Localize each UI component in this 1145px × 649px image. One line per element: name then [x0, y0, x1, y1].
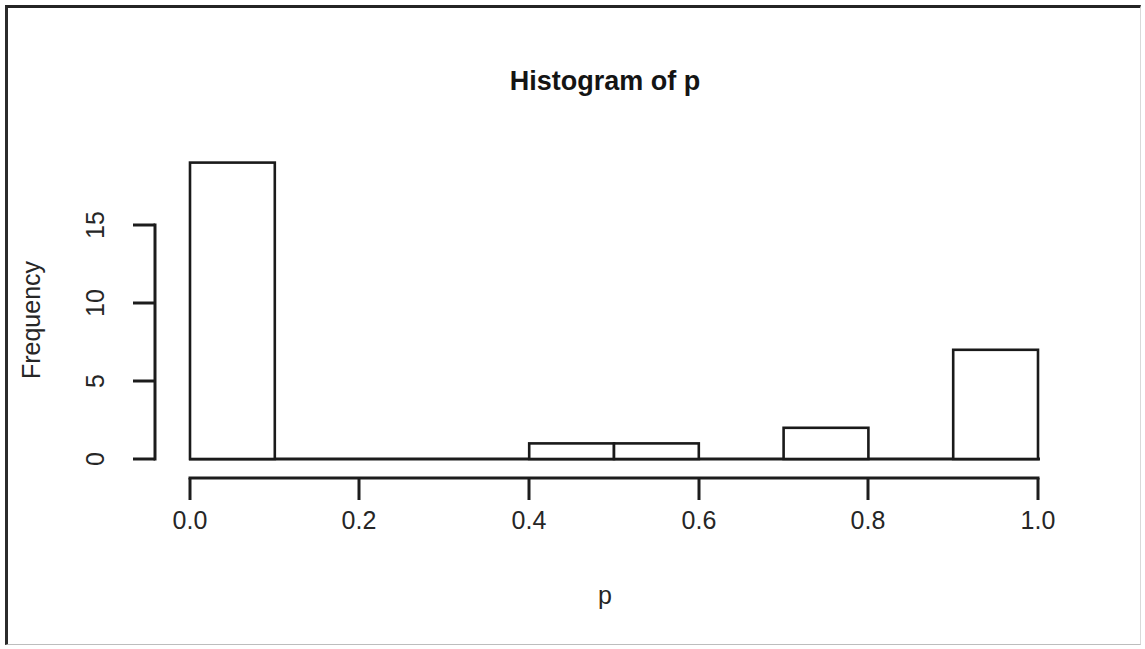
x-axis-title: p: [598, 581, 612, 609]
x-tick-label-0.4: 0.4: [512, 506, 547, 534]
x-tick-label-0.2: 0.2: [342, 506, 377, 534]
histogram-plot: Histogram of p 15 10 5 0 Frequency: [0, 0, 1145, 649]
y-tick-marks: [133, 225, 155, 459]
x-tick-label-1.0: 1.0: [1021, 506, 1056, 534]
x-tick-label-0.6: 0.6: [682, 506, 717, 534]
histogram-svg: Histogram of p 15 10 5 0 Frequency: [0, 0, 1145, 649]
histogram-bar: [953, 350, 1038, 459]
y-tick-labels: 15 10 5 0: [81, 211, 109, 466]
x-tick-label-0.0: 0.0: [173, 506, 208, 534]
x-tick-marks: [190, 478, 1038, 500]
histogram-bar: [190, 163, 275, 459]
y-tick-label-5: 5: [81, 374, 109, 388]
histogram-bar: [784, 428, 869, 459]
y-tick-label-10: 10: [81, 289, 109, 317]
plot-title: Histogram of p: [510, 66, 701, 96]
histogram-bar: [614, 443, 699, 459]
histogram-bar: [529, 443, 614, 459]
screenshot-canvas: Histogram of p 15 10 5 0 Frequency: [0, 0, 1145, 649]
y-axis-title: Frequency: [17, 260, 45, 379]
histogram-bars: [190, 163, 1038, 459]
y-tick-label-15: 15: [81, 211, 109, 239]
x-tick-label-0.8: 0.8: [851, 506, 886, 534]
y-tick-label-0: 0: [81, 452, 109, 466]
x-tick-labels: 0.0 0.2 0.4 0.6 0.8 1.0: [173, 506, 1056, 534]
